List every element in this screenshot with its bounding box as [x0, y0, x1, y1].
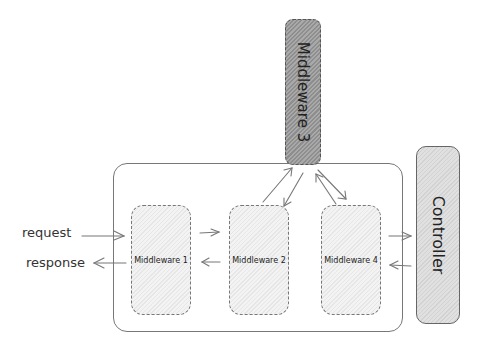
arrow-middleware3-to-middleware4 — [318, 170, 346, 199]
arrow-middleware1-to-middleware2 — [200, 229, 219, 236]
arrow-controller-to-middleware4 — [390, 261, 411, 269]
arrow-middleware3-to-middleware2 — [284, 173, 303, 206]
arrow-middleware1-to-response — [94, 258, 126, 268]
arrow-request-to-middleware1 — [82, 231, 124, 240]
arrow-middleware2-to-middleware3 — [263, 168, 292, 202]
arrows-layer — [0, 0, 481, 348]
arrow-middleware2-to-middleware1 — [202, 258, 220, 266]
arrow-middleware4-to-controller — [389, 232, 411, 240]
